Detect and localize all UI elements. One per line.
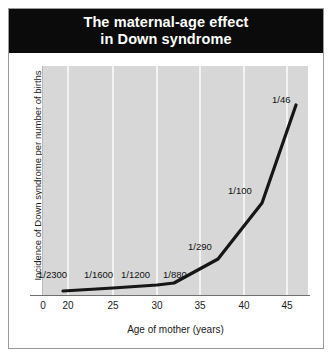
chart-title-line-1: The maternal-age effect [83, 14, 248, 31]
x-tick-label-20: 20 [53, 300, 83, 311]
y-axis-label: Incidence of Down syndrome per number of… [32, 61, 43, 291]
x-axis-line [30, 295, 310, 296]
data-point-label-1-46: 1/46 [272, 94, 291, 105]
chart-title-banner: The maternal-age effect in Down syndrome [9, 9, 323, 53]
data-point-label-1-880: 1/880 [163, 269, 187, 280]
x-axis-label: Age of mother (years) [43, 324, 308, 335]
chart-title-line-2: in Down syndrome [100, 31, 231, 48]
x-tick-label-25: 25 [98, 300, 128, 311]
plot-area [43, 66, 308, 295]
chart-figure: The maternal-age effect in Down syndrome… [0, 0, 334, 359]
x-tick-label-45: 45 [272, 300, 302, 311]
data-point-label-1-2300: 1/2300 [38, 269, 67, 280]
data-point-label-1-100: 1/100 [228, 185, 252, 196]
x-tick-label-35: 35 [185, 300, 215, 311]
x-tick-label-40: 40 [229, 300, 259, 311]
data-point-label-1-290: 1/290 [188, 241, 212, 252]
data-point-label-1-1600: 1/1600 [84, 269, 113, 280]
plot-svg [43, 66, 308, 295]
x-tick-label-30: 30 [142, 300, 172, 311]
data-point-label-1-1200: 1/1200 [121, 269, 150, 280]
